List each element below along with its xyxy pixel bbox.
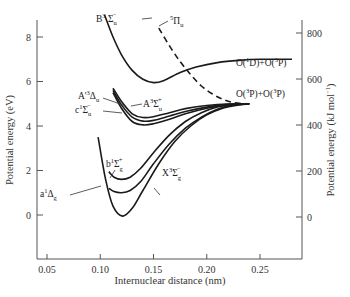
y-left-tick-label: 6	[26, 76, 31, 87]
label-O3P-O3P: O(3P)+O(3P)	[236, 87, 285, 100]
x-tick-label: 0.25	[251, 264, 269, 275]
potential-energy-chart: 0.050.100.150.200.25024680200400600800 I…	[0, 0, 350, 297]
x-tick-label: 0.15	[145, 264, 163, 275]
y-left-tick-label: 4	[26, 121, 31, 132]
label-a1Delta-g: a1Δg	[40, 187, 58, 201]
curves	[98, 15, 292, 216]
y-right-tick-label: 0	[307, 212, 312, 223]
y-right-tick-label: 800	[307, 28, 322, 39]
x-tick-label: 0.20	[198, 264, 216, 275]
x-tick-label: 0.10	[92, 264, 110, 275]
y-right-tick-label: 600	[307, 74, 322, 85]
label-O1D-O3P: O(1D)+O(3P)	[236, 56, 286, 69]
axes	[37, 20, 302, 259]
y-left-axis-title: Potential energy (eV)	[4, 94, 16, 185]
label-c1Sigma-u-minus: c1Σu−	[75, 102, 92, 117]
curve-B3-u-	[105, 15, 293, 83]
y-right-tick-label: 200	[307, 166, 322, 177]
y-left-tick-label: 8	[26, 32, 31, 43]
label-X3Sigma-g-minus: X3Σg−	[162, 165, 182, 181]
y-left-tick-label: 0	[26, 210, 31, 221]
label-5Pi-u: 5Πu	[170, 14, 184, 28]
label-b1Sigma-g-plus: b1Σg+	[106, 156, 124, 172]
y-right-axis-title: Potential energy (kJ mol−1)	[324, 83, 337, 197]
y-left-tick-label: 2	[26, 165, 31, 176]
label-Aprime3Delta-u: A'3Δu	[78, 89, 100, 103]
y-right-tick-label: 400	[307, 120, 322, 131]
x-tick-label: 0.05	[38, 264, 56, 275]
label-A3Sigma-u-plus: A3Σu+	[143, 96, 163, 112]
label-B3Sigma-u-minus: B3 Σu−	[96, 11, 118, 26]
x-axis-title: Internuclear distance (nm)	[115, 275, 226, 287]
